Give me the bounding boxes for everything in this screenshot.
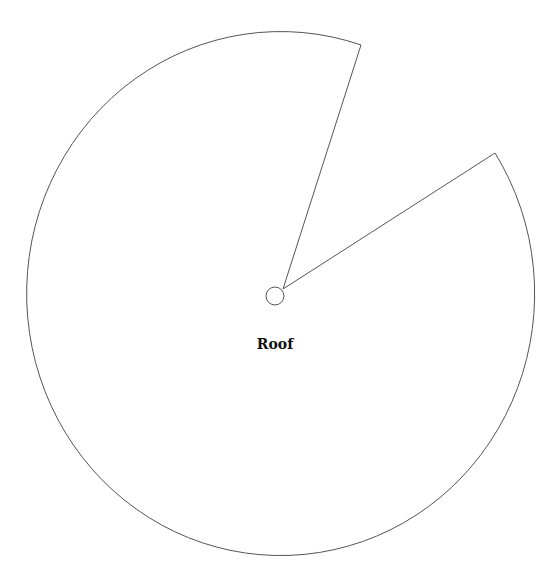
slice-label-roof: Roof: [257, 336, 294, 352]
pie-center-marker: [266, 287, 284, 305]
pie-chart: Roof: [0, 0, 556, 582]
